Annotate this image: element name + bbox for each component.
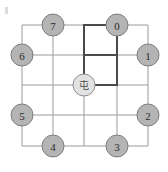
node-3-circle[interactable]	[106, 135, 128, 157]
node-1[interactable]: 1	[137, 44, 159, 66]
node-5[interactable]: 5	[11, 104, 33, 126]
node-6[interactable]: 6	[11, 44, 33, 66]
node-4[interactable]: 4	[42, 135, 64, 157]
node-6-circle[interactable]	[11, 44, 33, 66]
center-node-group: 屯	[73, 74, 95, 96]
center-node[interactable]: 屯	[73, 74, 95, 96]
center-node-circle[interactable]	[73, 74, 95, 96]
node-7-circle[interactable]	[42, 14, 64, 36]
node-7[interactable]: 7	[42, 14, 64, 36]
grid-graph-figure: 01234567 屯	[0, 0, 168, 172]
node-2[interactable]: 2	[137, 104, 159, 126]
node-5-circle[interactable]	[11, 104, 33, 126]
node-2-circle[interactable]	[137, 104, 159, 126]
node-4-circle[interactable]	[42, 135, 64, 157]
node-0-circle[interactable]	[106, 14, 128, 36]
node-1-circle[interactable]	[137, 44, 159, 66]
node-0[interactable]: 0	[106, 14, 128, 36]
node-3[interactable]: 3	[106, 135, 128, 157]
grid-graph-canvas: 01234567 屯	[0, 0, 168, 172]
